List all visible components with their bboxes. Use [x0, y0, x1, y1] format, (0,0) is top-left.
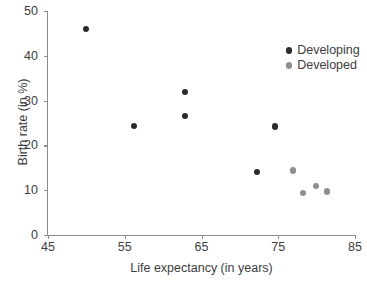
data-point — [182, 113, 188, 119]
legend-item: Developing — [286, 43, 360, 58]
data-point — [254, 169, 260, 175]
y-tick-label: 50 — [0, 5, 38, 18]
data-point — [182, 89, 188, 95]
scatter-chart: 01020304050 4555657585 Life expectancy (… — [0, 0, 367, 282]
x-tick-mark — [48, 235, 49, 239]
data-point — [272, 123, 278, 129]
legend-label: Developing — [297, 44, 360, 57]
x-tick-label: 45 — [28, 241, 68, 254]
y-tick-mark — [44, 235, 48, 236]
data-point — [83, 26, 89, 32]
data-point — [324, 188, 330, 194]
y-tick-label: 0 — [0, 229, 38, 242]
y-tick-mark — [44, 190, 48, 191]
data-point — [290, 167, 296, 173]
legend-dot-icon — [286, 47, 292, 53]
legend-dot-icon — [286, 62, 292, 68]
legend-item: Developed — [286, 58, 360, 73]
x-tick-label: 65 — [182, 241, 222, 254]
x-tick-label: 75 — [258, 241, 298, 254]
data-point — [300, 190, 306, 196]
y-tick-mark — [44, 101, 48, 102]
data-point — [313, 183, 319, 189]
legend-label: Developed — [297, 59, 357, 72]
x-tick-mark — [278, 235, 279, 239]
y-tick-mark — [44, 145, 48, 146]
x-axis-title: Life expectancy (in years) — [48, 261, 355, 275]
x-tick-mark — [202, 235, 203, 239]
y-tick-mark — [44, 56, 48, 57]
x-tick-mark — [355, 235, 356, 239]
x-tick-label: 55 — [105, 241, 145, 254]
x-tick-mark — [125, 235, 126, 239]
x-tick-label: 85 — [335, 241, 367, 254]
chart-legend: DevelopingDeveloped — [286, 43, 360, 73]
y-axis-title: Birth rate (in %) — [16, 47, 30, 197]
data-point — [131, 123, 137, 129]
y-axis-line — [47, 11, 48, 235]
y-tick-mark — [44, 11, 48, 12]
